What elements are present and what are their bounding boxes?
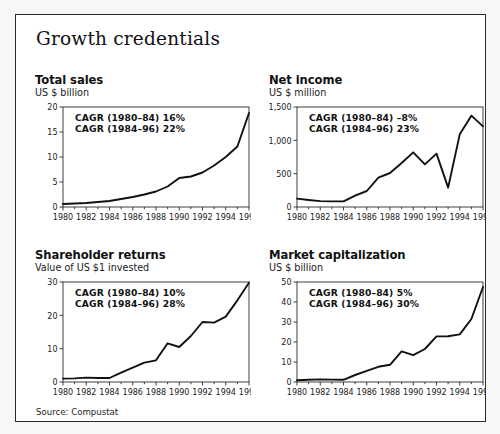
chart-panel-total-sales: Total sales US $ billion 051015201980198… — [35, 73, 251, 233]
svg-text:20: 20 — [47, 312, 57, 321]
svg-text:1990: 1990 — [403, 388, 423, 397]
svg-text:1984: 1984 — [99, 388, 119, 397]
svg-text:1994: 1994 — [216, 213, 236, 222]
svg-text:1996: 1996 — [473, 388, 485, 397]
svg-text:1996: 1996 — [473, 213, 485, 222]
svg-text:1988: 1988 — [380, 388, 400, 397]
cagr-annotation-line: CAGR (1980–84) 10% — [75, 287, 185, 298]
svg-text:1982: 1982 — [310, 213, 330, 222]
svg-text:1980: 1980 — [53, 213, 73, 222]
svg-text:1982: 1982 — [76, 213, 96, 222]
cagr-annotation: CAGR (1980–84) –8%CAGR (1984–96) 23% — [309, 112, 419, 135]
svg-text:1,000: 1,000 — [269, 137, 292, 146]
svg-text:1988: 1988 — [380, 213, 400, 222]
svg-text:1994: 1994 — [216, 388, 236, 397]
svg-text:20: 20 — [47, 103, 57, 112]
svg-text:10: 10 — [47, 153, 57, 162]
svg-text:1980: 1980 — [287, 213, 307, 222]
svg-text:1982: 1982 — [310, 388, 330, 397]
panel-title: Net income — [269, 73, 342, 87]
cagr-annotation-line: CAGR (1984–96) 22% — [75, 123, 185, 134]
svg-text:1980: 1980 — [287, 388, 307, 397]
source-note: Source: Compustat — [36, 407, 118, 417]
svg-text:1984: 1984 — [333, 388, 353, 397]
svg-text:1986: 1986 — [357, 213, 377, 222]
svg-text:1996: 1996 — [239, 388, 251, 397]
svg-text:30: 30 — [47, 278, 57, 287]
panel-subtitle: US $ billion — [35, 87, 89, 98]
figure-title: Growth credentials — [36, 28, 220, 49]
svg-text:0: 0 — [52, 378, 57, 387]
svg-text:1992: 1992 — [192, 388, 212, 397]
svg-text:1980: 1980 — [53, 388, 73, 397]
panel-title: Total sales — [35, 73, 103, 87]
svg-text:1988: 1988 — [146, 213, 166, 222]
panel-title: Market capitalization — [269, 248, 405, 262]
svg-text:1984: 1984 — [99, 213, 119, 222]
svg-text:15: 15 — [47, 128, 57, 137]
svg-text:1990: 1990 — [169, 388, 189, 397]
chart-panel-market-capitalization: Market capitalization US $ billion 01020… — [269, 248, 485, 408]
plot-area: 0102030198019821984198619881990199219941… — [35, 276, 251, 401]
plot-area: 0510152019801982198419861988199019921994… — [35, 101, 251, 226]
figure-frame: Growth credentials Total sales US $ bill… — [15, 14, 486, 422]
svg-text:1982: 1982 — [76, 388, 96, 397]
cagr-annotation: CAGR (1980–84) 16%CAGR (1984–96) 22% — [75, 112, 185, 135]
svg-text:20: 20 — [281, 338, 291, 347]
svg-text:1992: 1992 — [426, 388, 446, 397]
svg-text:10: 10 — [281, 358, 291, 367]
svg-text:1986: 1986 — [123, 388, 143, 397]
svg-text:0: 0 — [52, 203, 57, 212]
svg-text:10: 10 — [47, 345, 57, 354]
panel-subtitle: Value of US $1 invested — [35, 262, 149, 273]
cagr-annotation-line: CAGR (1980–84) 5% — [309, 287, 419, 298]
svg-text:1990: 1990 — [169, 213, 189, 222]
svg-text:0: 0 — [286, 203, 291, 212]
svg-text:1990: 1990 — [403, 213, 423, 222]
svg-text:40: 40 — [281, 298, 291, 307]
cagr-annotation-line: CAGR (1984–96) 23% — [309, 123, 419, 134]
svg-text:1994: 1994 — [450, 388, 470, 397]
svg-text:1996: 1996 — [239, 213, 251, 222]
cagr-annotation-line: CAGR (1980–84) –8% — [309, 112, 419, 123]
svg-text:1992: 1992 — [426, 213, 446, 222]
panel-title: Shareholder returns — [35, 248, 165, 262]
figure-canvas: Growth credentials Total sales US $ bill… — [0, 0, 500, 434]
svg-text:1992: 1992 — [192, 213, 212, 222]
plot-area: 05001,0001,50019801982198419861988199019… — [269, 101, 485, 226]
svg-text:500: 500 — [276, 170, 291, 179]
cagr-annotation: CAGR (1980–84) 5%CAGR (1984–96) 30% — [309, 287, 419, 310]
svg-text:30: 30 — [281, 318, 291, 327]
svg-text:1,500: 1,500 — [269, 103, 292, 112]
svg-text:50: 50 — [281, 278, 291, 287]
chart-panel-net-income: Net income US $ million 05001,0001,50019… — [269, 73, 485, 233]
panel-subtitle: US $ billion — [269, 262, 323, 273]
svg-text:5: 5 — [52, 178, 57, 187]
panel-subtitle: US $ million — [269, 87, 326, 98]
plot-area: 0102030405019801982198419861988199019921… — [269, 276, 485, 401]
svg-text:1986: 1986 — [123, 213, 143, 222]
cagr-annotation-line: CAGR (1980–84) 16% — [75, 112, 185, 123]
cagr-annotation-line: CAGR (1984–96) 28% — [75, 298, 185, 309]
svg-text:0: 0 — [286, 378, 291, 387]
svg-text:1984: 1984 — [333, 213, 353, 222]
cagr-annotation: CAGR (1980–84) 10%CAGR (1984–96) 28% — [75, 287, 185, 310]
cagr-annotation-line: CAGR (1984–96) 30% — [309, 298, 419, 309]
svg-text:1994: 1994 — [450, 213, 470, 222]
svg-text:1986: 1986 — [357, 388, 377, 397]
chart-panel-shareholder-returns: Shareholder returns Value of US $1 inves… — [35, 248, 251, 408]
svg-text:1988: 1988 — [146, 388, 166, 397]
